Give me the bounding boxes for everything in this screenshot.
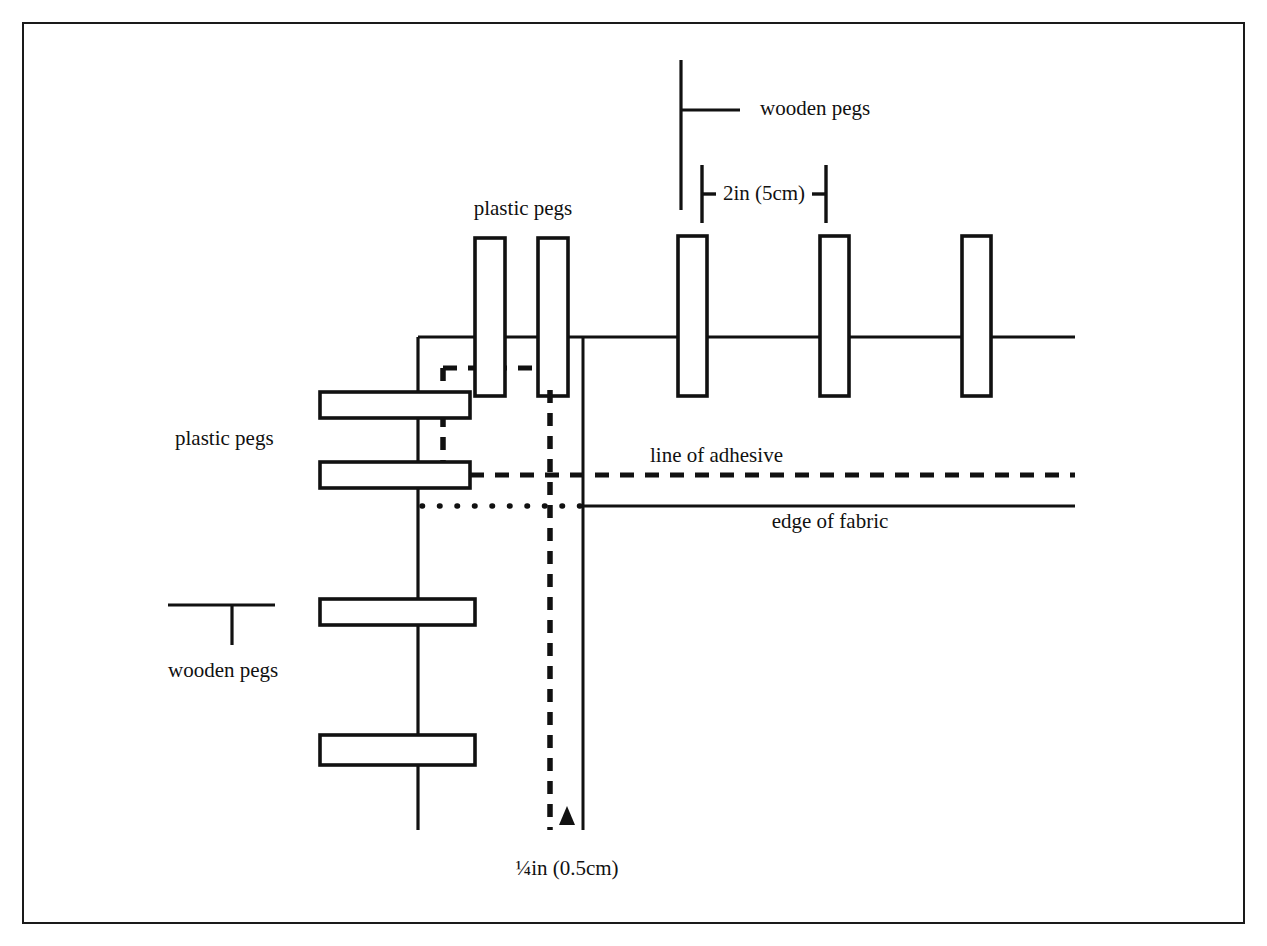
- plastic-peg-horizontal-1: [320, 392, 470, 418]
- dimension-2in-label: 2in (5cm): [723, 181, 805, 205]
- quarter-inch-arrow-head: [559, 806, 575, 825]
- vertical-pegs-group: [475, 236, 991, 396]
- plastic-peg-vertical-2: [538, 238, 568, 396]
- line-of-adhesive-label: line of adhesive: [650, 443, 783, 467]
- wooden-pegs-bottom-label: wooden pegs: [168, 658, 278, 682]
- wooden-peg-vertical-5: [962, 236, 991, 396]
- wooden-peg-horizontal-4: [320, 735, 475, 765]
- horizontal-pegs-group: [320, 392, 475, 765]
- dimension-quarter-inch-label: ¼in (0.5cm): [515, 856, 618, 880]
- technique-diagram: wooden pegs 2in (5cm) plastic pegs: [0, 0, 1267, 946]
- plastic-peg-horizontal-2: [320, 462, 470, 488]
- wooden-peg-legend-bottom: [168, 605, 275, 645]
- wooden-pegs-top-label: wooden pegs: [760, 96, 870, 120]
- plastic-pegs-top-label: plastic pegs: [474, 196, 573, 220]
- figure-root: wooden pegs 2in (5cm) plastic pegs: [0, 0, 1267, 946]
- wooden-peg-vertical-3: [678, 236, 707, 396]
- plastic-pegs-left-label: plastic pegs: [175, 426, 274, 450]
- plastic-peg-vertical-1: [475, 238, 505, 396]
- wooden-peg-horizontal-3: [320, 599, 475, 625]
- edge-of-fabric-label: edge of fabric: [772, 509, 889, 533]
- wooden-peg-vertical-4: [820, 236, 849, 396]
